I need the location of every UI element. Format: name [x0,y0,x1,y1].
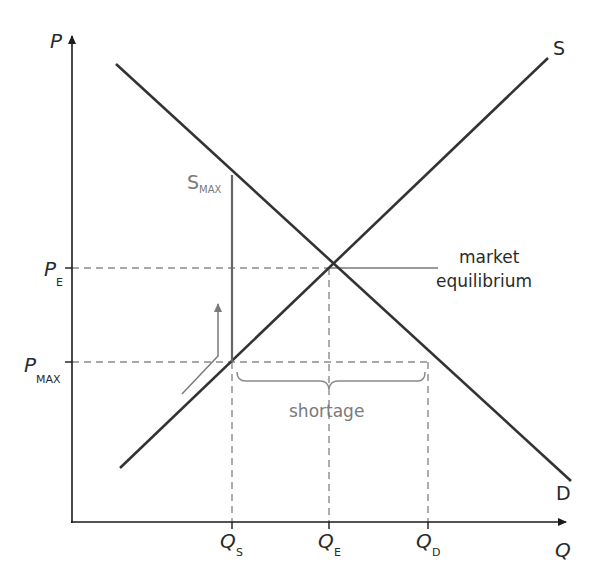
shortage-label: shortage [289,401,364,421]
price-ceiling-diagram: P Q S D P E P MAX Q S Q E Q D S MAX mark… [0,0,596,563]
supply-label: S [553,37,565,59]
y-axis-label: P [50,29,63,53]
market-equilibrium-label-2: equilibrium [436,271,532,291]
x-axis-label: Q [555,538,571,562]
qd-label: Q D [416,529,440,559]
qs-label: Q S [220,529,243,559]
svg-text:Q: Q [416,529,432,553]
svg-text:Q: Q [318,529,334,553]
qe-label: Q E [318,529,341,559]
svg-text:Q: Q [220,529,236,553]
guide-lines [72,268,428,522]
pmax-label: P MAX [24,353,61,386]
market-equilibrium-label-1: market [459,247,520,267]
shortage-brace [237,372,425,389]
smax-label: S MAX [187,171,221,195]
svg-text:D: D [432,546,440,559]
svg-text:MAX: MAX [36,373,61,386]
pe-label: P E [44,257,63,289]
demand-label: D [556,482,571,504]
axis-ticks [65,268,428,529]
svg-text:MAX: MAX [199,184,221,195]
svg-text:E: E [334,546,341,559]
svg-text:S: S [187,171,199,193]
svg-text:E: E [56,276,63,289]
svg-text:S: S [236,546,243,559]
